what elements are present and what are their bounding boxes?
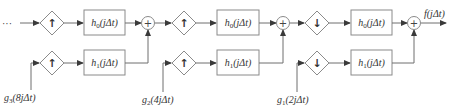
input-line: [31, 63, 39, 90]
input-label-g1: g1(2jΔt): [277, 94, 309, 107]
downsample-arrow-icon: ↓: [312, 17, 321, 30]
upsample-arrow-icon: ↑: [179, 17, 188, 30]
plus-icon: +: [144, 18, 152, 29]
upsample-arrow-icon: ↑: [47, 17, 56, 30]
input-line: [163, 63, 171, 92]
output-label: f(jΔt): [424, 8, 446, 20]
stage-1: ↑ h0(jΔt) ↑ h1(jΔt) + g3(8jΔt): [4, 10, 155, 105]
input-label-g2: g2(4jΔt): [142, 94, 174, 107]
stage-2: ↑ h0(jΔt) ↑ h1(jΔt) + g2(4jΔt): [142, 10, 290, 107]
plus-icon: +: [410, 18, 418, 29]
connector-arrow: [392, 30, 414, 63]
plus-icon: +: [279, 18, 287, 29]
input-label-g3: g3(8jΔt): [4, 92, 36, 105]
input-ellipsis: ···: [2, 18, 12, 29]
upsample-arrow-icon: ↑: [47, 57, 56, 70]
stage-3: ↓ h0(jΔt) ↓ h1(jΔt) + g1(2jΔt): [277, 10, 421, 107]
connector-arrow: [259, 30, 283, 63]
downsample-arrow-icon: ↓: [312, 57, 321, 70]
connector-arrow: [125, 30, 148, 63]
filter-bank-diagram: ··· ↑ h0(jΔt) ↑ h1(jΔt) + g3(8jΔt) ↑ h0(…: [0, 0, 453, 111]
input-line: [297, 63, 304, 92]
upsample-arrow-icon: ↑: [179, 57, 188, 70]
